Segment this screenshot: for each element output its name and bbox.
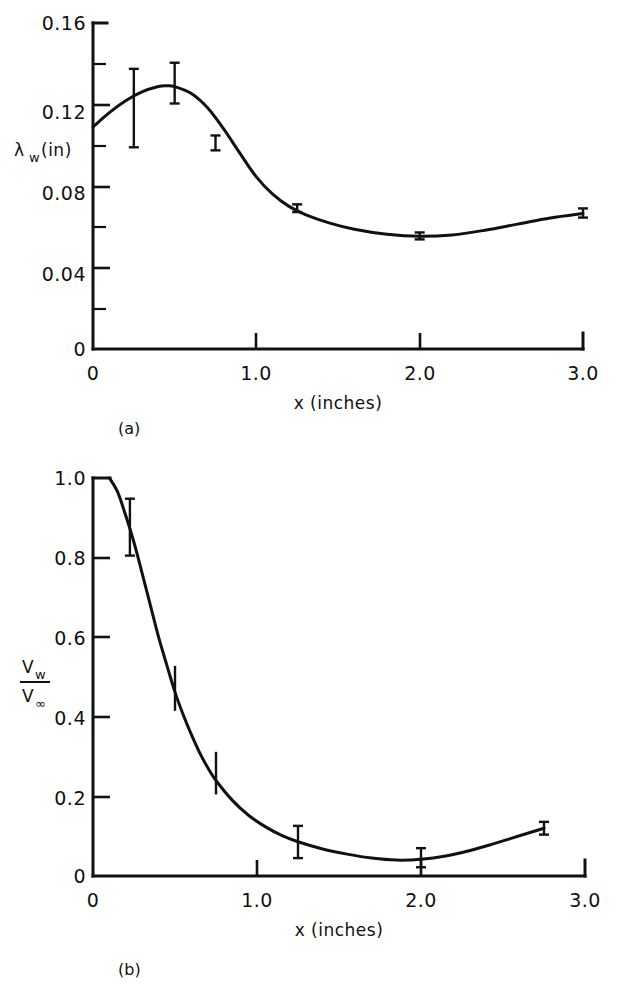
y-axis-unit: (in) xyxy=(41,140,72,160)
panel-label-b: (b) xyxy=(118,960,141,979)
x-tick-label: 3.0 xyxy=(567,362,599,384)
x-tick-label: 0 xyxy=(87,362,100,384)
x-axis-tick-labels-a: 0 1.0 2.0 3.0 xyxy=(87,362,599,384)
x-axis-ticks-a xyxy=(256,333,420,349)
x-axis-title-b: x (inches) xyxy=(295,920,384,940)
chart-panel-b: 1.0 0.8 0.6 0.4 0.2 0 V w V ∞ xyxy=(0,430,618,998)
error-bars-a xyxy=(129,63,588,240)
y-axis-major-ticks-a xyxy=(93,105,110,268)
x-axis-tick-labels-b: 0 1.0 2.0 3.0 xyxy=(87,889,601,911)
error-bars-b xyxy=(125,499,549,868)
y-tick-label: 0.2 xyxy=(54,787,86,809)
x-tick-label: 2.0 xyxy=(404,362,436,384)
figure-panel-a: 0.16 0.12 0.08 0.04 0 λ w (in) xyxy=(0,0,618,440)
y-axis-denominator-subscript: ∞ xyxy=(35,696,46,711)
x-tick-label: 1.0 xyxy=(241,889,273,911)
y-tick-label: 0 xyxy=(73,338,86,360)
y-axis-major-ticks-b xyxy=(93,558,110,797)
y-axis-symbol: λ xyxy=(14,140,25,160)
y-tick-label: 0.12 xyxy=(42,101,86,123)
y-tick-label: 1.0 xyxy=(54,467,86,489)
y-tick-label: 0.8 xyxy=(54,547,86,569)
y-tick-label: 0.6 xyxy=(54,627,86,649)
y-axis-title-b: V w V ∞ xyxy=(20,657,50,711)
y-tick-label: 0 xyxy=(73,865,86,887)
y-axis-title-a: λ w (in) xyxy=(14,140,72,165)
y-axis-tick-labels-a: 0.16 0.12 0.08 0.04 0 xyxy=(42,12,86,360)
y-axis-numerator-subscript: w xyxy=(35,667,46,682)
y-tick-label: 0.16 xyxy=(42,12,86,34)
figure-panel-b: 1.0 0.8 0.6 0.4 0.2 0 V w V ∞ xyxy=(0,430,618,998)
x-tick-label: 2.0 xyxy=(405,889,437,911)
axes-b xyxy=(93,478,585,876)
data-curve-a xyxy=(93,86,583,237)
y-axis-numerator: V xyxy=(22,657,34,677)
x-tick-label: 1.0 xyxy=(240,362,272,384)
x-tick-label: 3.0 xyxy=(569,889,601,911)
axes-a xyxy=(93,23,583,349)
x-axis-ticks-b xyxy=(257,860,421,876)
x-tick-label: 0 xyxy=(87,889,100,911)
y-tick-label: 0.4 xyxy=(54,707,86,729)
y-axis-subscript: w xyxy=(29,150,40,165)
y-tick-label: 0.04 xyxy=(42,263,86,285)
y-axis-tick-labels-b: 1.0 0.8 0.6 0.4 0.2 0 xyxy=(54,467,86,887)
y-tick-label: 0.08 xyxy=(42,182,86,204)
chart-panel-a: 0.16 0.12 0.08 0.04 0 λ w (in) xyxy=(0,0,618,440)
x-axis-title-a: x (inches) xyxy=(294,393,383,413)
y-axis-denominator: V xyxy=(22,686,34,706)
